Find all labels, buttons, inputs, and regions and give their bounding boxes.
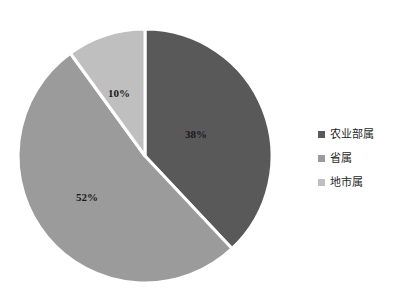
pie-svg bbox=[0, 0, 300, 304]
legend-item-label: 省属 bbox=[330, 153, 352, 164]
pie-plot-area: 38% 52% 10% bbox=[0, 0, 300, 304]
legend-square-marker-icon bbox=[318, 179, 325, 186]
pie-slices bbox=[18, 29, 272, 283]
legend-square-marker-icon bbox=[318, 131, 325, 138]
pie-slice-label-prefecture-city: 10% bbox=[108, 88, 130, 99]
legend-item-label: 地市属 bbox=[330, 177, 363, 188]
pie-chart-figure: 38% 52% 10% 农业部属 省属 地市属 bbox=[0, 0, 396, 304]
pie-slice-label-provincial: 52% bbox=[76, 192, 98, 203]
legend-item-prefecture-city[interactable]: 地市属 bbox=[318, 170, 396, 194]
pie-slice-label-agriculture-ministry: 38% bbox=[185, 129, 207, 140]
legend-square-marker-icon bbox=[318, 155, 325, 162]
chart-legend: 农业部属 省属 地市属 bbox=[318, 122, 396, 194]
legend-item-label: 农业部属 bbox=[330, 129, 374, 140]
legend-item-provincial[interactable]: 省属 bbox=[318, 146, 396, 170]
legend-item-agriculture-ministry[interactable]: 农业部属 bbox=[318, 122, 396, 146]
